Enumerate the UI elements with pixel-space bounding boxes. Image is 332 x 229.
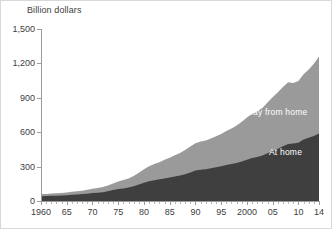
x-tick-minor-1996 <box>226 202 227 204</box>
x-tick-label-1990: 90 <box>188 207 202 217</box>
x-tick-mark-1965 <box>67 202 68 205</box>
x-tick-mark-1985 <box>170 202 171 205</box>
y-axis-title: Billion dollars <box>27 5 82 15</box>
x-tick-minor-1983 <box>159 202 160 204</box>
x-tick-label-1970: 70 <box>85 207 99 217</box>
away-from-home-label: Away from home <box>241 107 307 117</box>
x-tick-minor-1982 <box>154 202 155 204</box>
x-tick-minor-1972 <box>103 202 104 204</box>
x-tick-minor-1994 <box>216 202 217 204</box>
x-tick-minor-1979 <box>139 202 140 204</box>
x-tick-minor-1978 <box>134 202 135 204</box>
x-tick-mark-1995 <box>221 202 222 205</box>
x-tick-label-1960: 1960 <box>28 207 54 217</box>
x-tick-minor-1981 <box>149 202 150 204</box>
x-tick-minor-1962 <box>51 202 52 204</box>
chart-figure: Billion dollars 1,500 1,200 900 600 300 … <box>0 0 332 229</box>
x-tick-minor-1977 <box>129 202 130 204</box>
x-tick-minor-2013 <box>314 202 315 204</box>
x-tick-minor-1989 <box>190 202 191 204</box>
x-tick-minor-2001 <box>252 202 253 204</box>
x-tick-label-1965: 65 <box>60 207 74 217</box>
y-tick-label-1500: 1,500 <box>12 25 35 34</box>
x-tick-minor-2006 <box>278 202 279 204</box>
x-tick-mark-1960 <box>41 202 42 205</box>
x-tick-minor-2004 <box>268 202 269 204</box>
y-tick-label-300: 300 <box>20 163 35 172</box>
x-tick-minor-1966 <box>72 202 73 204</box>
x-tick-minor-1986 <box>175 202 176 204</box>
x-tick-minor-1963 <box>56 202 57 204</box>
x-tick-minor-1988 <box>185 202 186 204</box>
x-tick-mark-2010 <box>298 202 299 205</box>
x-tick-minor-1967 <box>77 202 78 204</box>
x-tick-minor-2002 <box>257 202 258 204</box>
x-tick-mark-2000 <box>247 202 248 205</box>
x-tick-minor-1961 <box>46 202 47 204</box>
x-tick-minor-2007 <box>283 202 284 204</box>
x-tick-minor-2012 <box>309 202 310 204</box>
x-tick-minor-1998 <box>237 202 238 204</box>
x-tick-minor-1987 <box>180 202 181 204</box>
x-tick-label-1995: 95 <box>214 207 228 217</box>
x-tick-minor-1964 <box>62 202 63 204</box>
x-tick-minor-1974 <box>113 202 114 204</box>
x-tick-minor-2009 <box>293 202 294 204</box>
x-tick-minor-1991 <box>201 202 202 204</box>
x-tick-minor-1993 <box>211 202 212 204</box>
x-tick-mark-2014 <box>319 202 320 205</box>
y-tick-label-1200: 1,200 <box>12 59 35 68</box>
x-tick-minor-1984 <box>165 202 166 204</box>
x-tick-label-2010: 10 <box>291 207 305 217</box>
x-tick-mark-1990 <box>195 202 196 205</box>
x-tick-minor-1999 <box>242 202 243 204</box>
x-tick-minor-1971 <box>98 202 99 204</box>
x-tick-mark-2005 <box>273 202 274 205</box>
x-tick-minor-1997 <box>231 202 232 204</box>
x-tick-minor-2011 <box>304 202 305 204</box>
x-tick-label-2014: 14 <box>312 207 326 217</box>
x-tick-minor-1969 <box>87 202 88 204</box>
x-tick-minor-2008 <box>288 202 289 204</box>
x-tick-minor-1976 <box>123 202 124 204</box>
x-tick-label-1985: 85 <box>163 207 177 217</box>
x-tick-mark-1980 <box>144 202 145 205</box>
y-axis-tick-labels: 1,500 1,200 900 600 300 0 <box>1 1 35 229</box>
x-tick-mark-1970 <box>92 202 93 205</box>
y-tick-label-900: 900 <box>20 94 35 103</box>
at-home-label: At home <box>269 147 302 157</box>
x-tick-label-1975: 75 <box>111 207 125 217</box>
y-axis-line <box>41 29 42 202</box>
y-tick-label-600: 600 <box>20 128 35 137</box>
x-tick-minor-1992 <box>206 202 207 204</box>
x-tick-minor-1968 <box>82 202 83 204</box>
x-tick-mark-1975 <box>118 202 119 205</box>
x-tick-label-2005: 05 <box>266 207 280 217</box>
x-tick-minor-2003 <box>262 202 263 204</box>
x-tick-label-1980: 80 <box>137 207 151 217</box>
x-tick-label-2000: 2000 <box>234 207 260 217</box>
y-tick-label-0: 0 <box>30 197 35 206</box>
x-tick-minor-1973 <box>108 202 109 204</box>
